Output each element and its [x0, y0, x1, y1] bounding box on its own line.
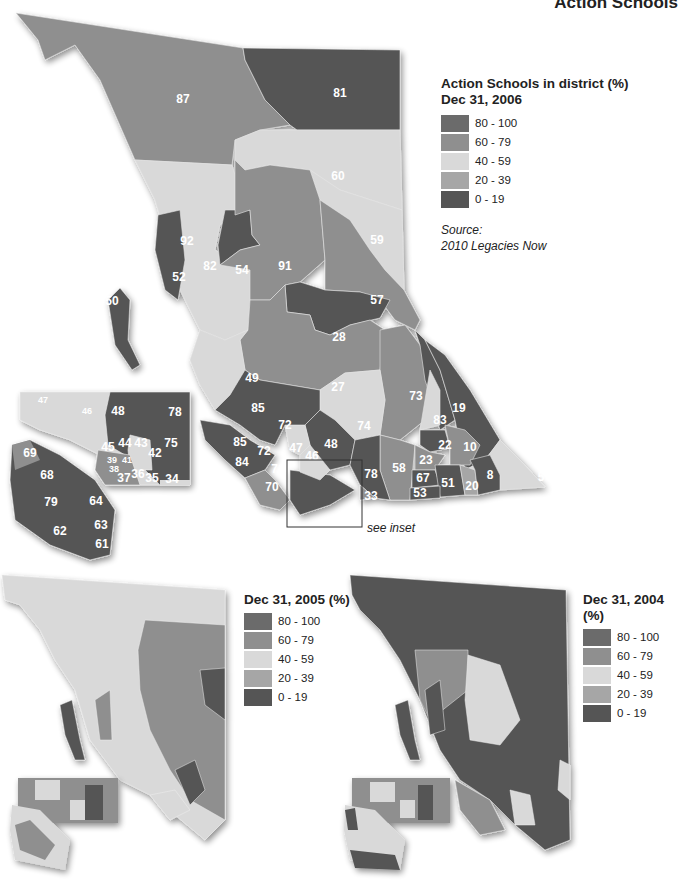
svg-text:34: 34	[165, 472, 179, 486]
svg-text:36: 36	[131, 467, 145, 481]
legend-2005-item-60-79: 60 - 79	[244, 631, 350, 649]
label-91: 91	[278, 259, 292, 273]
see-inset-note: see inset	[367, 521, 415, 535]
legend-2006: Action Schools in district (%) Dec 31, 2…	[441, 76, 629, 254]
label-72b: 72	[257, 444, 271, 458]
label-74: 74	[357, 419, 371, 433]
label-6: 6	[505, 410, 512, 424]
legend-2004: Dec 31, 2004 (%) 80 - 100 60 - 79 40 - 5…	[583, 592, 686, 722]
legend-2005: Dec 31, 2005 (%) 80 - 100 60 - 79 40 - 5…	[244, 592, 350, 706]
svg-text:37: 37	[117, 471, 131, 485]
legend-2004-item-20-39: 20 - 39	[583, 685, 686, 703]
legend-2004-item-80-100: 80 - 100	[583, 628, 686, 646]
legend-item-0-19: 0 - 19	[441, 190, 629, 208]
svg-text:43: 43	[134, 436, 148, 450]
legend-2005-item-20-39: 20 - 39	[244, 669, 350, 687]
svg-text:44: 44	[118, 436, 132, 450]
label-22: 22	[438, 438, 452, 452]
svg-text:42: 42	[148, 446, 162, 460]
label-19: 19	[452, 401, 466, 415]
inset-2005	[10, 778, 118, 870]
label-54: 54	[235, 263, 249, 277]
svg-text:64: 64	[89, 494, 103, 508]
legend-2004-item-40-59: 40 - 59	[583, 666, 686, 684]
label-20: 20	[465, 479, 479, 493]
label-85b: 85	[233, 435, 247, 449]
main-inset	[10, 392, 190, 560]
label-47: 47	[289, 441, 303, 455]
legend-item-60-79: 60 - 79	[441, 133, 629, 151]
district-52	[155, 210, 185, 300]
svg-text:75: 75	[164, 436, 178, 450]
label-53: 53	[413, 486, 427, 500]
legend-2005-item-0-19: 0 - 19	[244, 688, 350, 706]
svg-text:79: 79	[44, 495, 58, 509]
legend-2004-title: Dec 31, 2004 (%)	[583, 592, 686, 624]
legend-2005-title: Dec 31, 2005 (%)	[244, 592, 350, 608]
svg-text:48: 48	[111, 404, 125, 418]
svg-text:69: 69	[23, 446, 37, 460]
svg-text:63: 63	[94, 518, 108, 532]
legend-date: Dec 31, 2006	[441, 92, 629, 108]
label-78: 78	[364, 467, 378, 481]
label-87: 87	[176, 92, 190, 106]
legend-item-80-100: 80 - 100	[441, 114, 629, 132]
legend-2004-item-60-79: 60 - 79	[583, 647, 686, 665]
label-71: 71	[271, 462, 285, 476]
label-10: 10	[463, 440, 477, 454]
legend-2005-item-80-100: 80 - 100	[244, 612, 350, 630]
svg-text:46: 46	[82, 406, 92, 416]
label-73: 73	[409, 389, 423, 403]
label-52: 52	[172, 270, 186, 284]
label-70: 70	[265, 480, 279, 494]
label-82: 82	[203, 259, 217, 273]
svg-text:45: 45	[101, 440, 115, 454]
label-8: 8	[487, 468, 494, 482]
label-23: 23	[419, 453, 433, 467]
legend-2005-item-40-59: 40 - 59	[244, 650, 350, 668]
inset-2004	[344, 778, 450, 870]
label-48: 48	[324, 437, 338, 451]
label-28: 28	[332, 330, 346, 344]
svg-text:78: 78	[168, 405, 182, 419]
label-51: 51	[441, 476, 455, 490]
svg-text:47: 47	[38, 395, 48, 405]
legend-title: Action Schools in district (%)	[441, 76, 629, 92]
label-85: 85	[251, 401, 265, 415]
source-value: 2010 Legacies Now	[441, 238, 629, 254]
label-67: 67	[416, 471, 430, 485]
source-label: Source:	[441, 222, 629, 238]
label-81: 81	[333, 86, 347, 100]
label-83: 83	[433, 413, 447, 427]
label-60: 60	[331, 169, 345, 183]
legend-item-20-39: 20 - 39	[441, 171, 629, 189]
label-92: 92	[180, 234, 194, 248]
svg-text:68: 68	[40, 468, 54, 482]
label-27: 27	[331, 380, 345, 394]
label-84: 84	[235, 455, 249, 469]
label-46: 46	[305, 449, 319, 463]
label-49: 49	[245, 371, 259, 385]
label-58: 58	[392, 461, 406, 475]
label-59: 59	[370, 233, 384, 247]
label-5: 5	[538, 470, 545, 484]
svg-text:62: 62	[53, 524, 67, 538]
svg-text:41: 41	[122, 455, 132, 465]
svg-text:35: 35	[145, 471, 159, 485]
label-57: 57	[370, 293, 384, 307]
svg-text:61: 61	[95, 537, 109, 551]
legend-item-40-59: 40 - 59	[441, 152, 629, 170]
label-33: 33	[364, 489, 378, 503]
label-72: 72	[278, 418, 292, 432]
legend-2004-item-0-19: 0 - 19	[583, 704, 686, 722]
label-50: 50	[105, 294, 119, 308]
